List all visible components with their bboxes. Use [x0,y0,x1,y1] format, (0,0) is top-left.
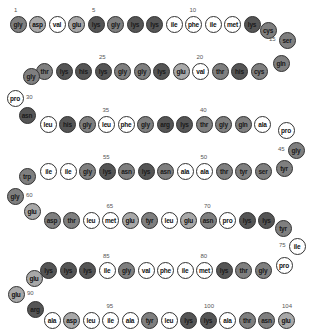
residue-64: leu [83,212,100,229]
residue-27: lys [56,63,73,80]
residue-3: val [49,16,66,33]
residue-36: phe [118,116,135,133]
residue-87: lys [60,262,77,279]
position-label: 20 [197,54,204,60]
residue-1: gly [10,16,27,33]
residue-19: thr [212,63,229,80]
residue-30: pro [7,90,24,107]
position-label: 85 [103,253,110,259]
position-label: 1 [14,7,17,13]
residue-98: leu [161,312,178,329]
position-label: 100 [204,303,214,309]
residue-55: lys [99,163,116,180]
position-label: 45 [278,146,285,152]
residue-88: lys [40,262,57,279]
residue-25: lys [95,63,112,80]
residue-15: ser [279,32,296,49]
position-label: 15 [269,36,276,42]
residue-20: val [192,63,209,80]
residue-104: glu [278,312,295,329]
residue-73: lys [258,212,275,229]
residue-102: thr [239,312,256,329]
residue-84: gly [118,262,135,279]
residue-79: lys [216,262,233,279]
residue-86: lys [79,262,96,279]
residue-35: leu [98,116,115,133]
position-label: 95 [107,303,114,309]
position-label: 75 [279,242,286,248]
residue-9: ile [166,16,183,33]
residue-42: gln [235,116,252,133]
residue-37: gly [137,116,154,133]
residue-44: pro [278,122,295,139]
residue-48: tyr [235,163,252,180]
residue-12: met [224,16,241,33]
position-label: 5 [92,7,95,13]
residue-40: thr [196,116,213,133]
residue-67: tyr [141,212,158,229]
residue-78: thr [235,262,252,279]
residue-90: glu [8,286,25,303]
residue-81: ile [177,262,194,279]
residue-69: glu [180,212,197,229]
residue-46: tyr [276,160,293,177]
residue-101: ala [219,312,236,329]
residue-89: glu [26,270,43,287]
position-label: 35 [103,107,110,113]
residue-68: leu [161,212,178,229]
residue-76: pro [276,257,293,274]
residue-65: met [102,212,119,229]
residue-100: lys [200,312,217,329]
residue-60: gly [7,188,24,205]
residue-21: glu [173,63,190,80]
sequence-diagram: gly1aspvalglulys5glylyslysilephe10ilemet… [0,0,333,335]
residue-85: ile [99,262,116,279]
residue-6: gly [107,16,124,33]
residue-33: his [59,116,76,133]
residue-13: lys [244,16,261,33]
position-label: 80 [201,253,208,259]
residue-66: glu [122,212,139,229]
residue-50: ala [196,163,213,180]
residue-95: ile [102,312,119,329]
residue-5: lys [88,16,105,33]
residue-58: ile [40,163,57,180]
residue-92: ala [44,312,61,329]
residue-52: asn [157,163,174,180]
position-label: 90 [27,290,34,296]
residue-70: asn [200,212,217,229]
residue-103: asn [258,312,275,329]
residue-91: arg [27,301,44,318]
residue-45: gly [288,142,305,159]
residue-4: glu [68,16,85,33]
residue-82: phe [157,262,174,279]
residue-41: gly [215,116,232,133]
residue-93: asp [63,312,80,329]
position-label: 40 [200,107,207,113]
residue-83: val [138,262,155,279]
residue-99: lys [180,312,197,329]
residue-29: gly [23,68,40,85]
residue-23: gly [134,63,151,80]
residue-77: gly [255,262,272,279]
residue-75: ile [289,238,306,255]
residue-10: phe [185,16,202,33]
residue-54: asn [118,163,135,180]
residue-49: thr [216,163,233,180]
residue-96: ala [122,312,139,329]
residue-2: asp [29,16,46,33]
residue-38: arg [157,116,174,133]
residue-26: his [75,63,92,80]
residue-11: ile [205,16,222,33]
residue-31: asn [19,107,36,124]
residue-16: gln [273,55,290,72]
residue-53: lys [138,163,155,180]
residue-80: met [196,262,213,279]
residue-97: tyr [141,312,158,329]
position-label: 55 [103,154,110,160]
residue-7: lys [127,16,144,33]
residue-47: ser [255,163,272,180]
residue-61: glu [24,203,41,220]
position-label: 50 [201,154,208,160]
residue-56: gly [79,163,96,180]
